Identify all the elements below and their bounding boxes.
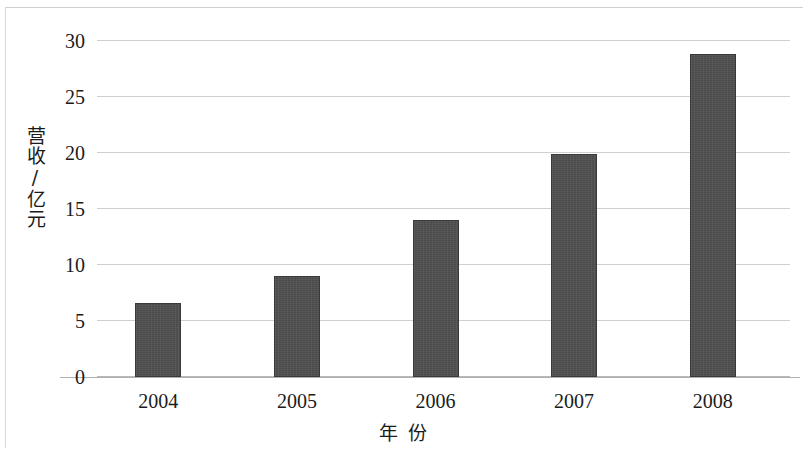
y-tick-label: 5 xyxy=(75,311,85,331)
y-tick-label: 30 xyxy=(65,31,85,51)
y-axis-title: 营收/亿元 xyxy=(16,126,44,229)
x-tick-label-2008: 2008 xyxy=(693,391,733,411)
x-tick-label-2006: 2006 xyxy=(416,391,456,411)
bar-2004 xyxy=(135,303,181,377)
y-tick-label: 25 xyxy=(65,87,85,107)
x-tick-label-2004: 2004 xyxy=(138,391,178,411)
bar-2008 xyxy=(690,54,736,377)
y-tick-label: 10 xyxy=(65,255,85,275)
y-tick-label: 20 xyxy=(65,143,85,163)
x-axis-title: 年 份 xyxy=(0,424,808,443)
bar-2005 xyxy=(274,276,320,377)
plot-area: 05101520253020042005200620072008 xyxy=(97,36,790,377)
x-tick-label-2007: 2007 xyxy=(554,391,594,411)
x-tick-label-2005: 2005 xyxy=(277,391,317,411)
bar-chart: 营收/亿元 05101520253020042005200620072008 年… xyxy=(0,0,808,451)
gridline-30 xyxy=(97,40,790,41)
y-tick-label: 15 xyxy=(65,199,85,219)
bar-2007 xyxy=(551,154,597,377)
gridline-15 xyxy=(97,208,790,209)
gridline-25 xyxy=(97,96,790,97)
gridline-20 xyxy=(97,152,790,153)
x-axis-line xyxy=(60,377,800,378)
y-tick-label: 0 xyxy=(75,367,85,387)
bar-2006 xyxy=(413,220,459,377)
